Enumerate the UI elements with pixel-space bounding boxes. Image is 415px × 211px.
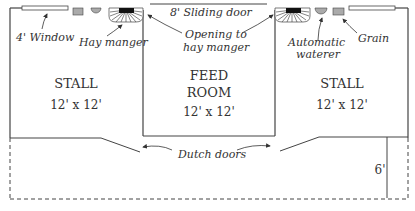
window-right bbox=[349, 6, 395, 10]
waterer-label-line2: waterer bbox=[296, 48, 341, 61]
dutch-doors-label: Dutch doors bbox=[177, 148, 247, 161]
feed-room-size: 12' x 12' bbox=[183, 105, 235, 119]
waterer-left bbox=[91, 8, 101, 13]
barn-floor-plan: 4' Window Hay manger 8' Sliding door Ope… bbox=[0, 0, 415, 211]
hay-manger-right bbox=[275, 8, 310, 22]
feed-room-name-line2: ROOM bbox=[187, 85, 231, 100]
window-left bbox=[22, 6, 68, 10]
feed-room-name-line1: FEED bbox=[190, 68, 228, 83]
right-stall-name: STALL bbox=[320, 76, 364, 91]
sliding-door-label: 8' Sliding door bbox=[170, 6, 253, 19]
grain-bin-left bbox=[73, 8, 83, 15]
opening-label-line2: hay manger bbox=[183, 41, 250, 54]
window-label: 4' Window bbox=[15, 31, 75, 44]
left-stall-size: 12' x 12' bbox=[50, 98, 102, 112]
hay-manger-label: Hay manger bbox=[78, 36, 148, 49]
opening-label-line1: Opening to bbox=[185, 28, 247, 41]
left-stall-name: STALL bbox=[54, 76, 98, 91]
grain-label: Grain bbox=[358, 32, 389, 45]
overhang-dimension-label: 6' bbox=[375, 163, 386, 177]
grain-bin-right bbox=[333, 8, 344, 15]
hay-manger-left bbox=[109, 8, 143, 22]
waterer-right bbox=[315, 8, 327, 14]
right-stall-size: 12' x 12' bbox=[316, 98, 368, 112]
